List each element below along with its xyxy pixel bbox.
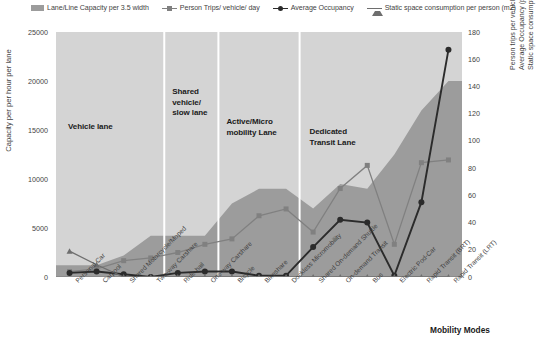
x-axis-label: One-way Carshare: [209, 279, 214, 284]
legend-item-capacity: Lane/Line Capacity per 3.5 width: [31, 4, 149, 12]
legend-item-static-space: Static space consumption per person (m2): [367, 4, 516, 12]
y-axis-right-tick: 100: [468, 136, 498, 145]
area-capacity: [56, 81, 462, 277]
x-axis-title: Mobility Modes: [430, 325, 490, 335]
x-axis-label: Carpool: [101, 279, 106, 284]
data-point: [121, 258, 126, 263]
data-point: [338, 186, 343, 191]
x-axis-label: Bikeshare: [263, 279, 268, 284]
x-axis-label: Dockless Micromobility: [290, 279, 295, 284]
chart-page: Lane/Line Capacity per 3.5 width Person …: [0, 0, 547, 344]
data-point: [364, 220, 370, 226]
x-axis-label: Rapid Transit (BRT): [425, 279, 430, 284]
legend-item-average-occupancy: Average Occupancy: [273, 4, 354, 12]
x-axis-label: Electric Pod-Car: [398, 279, 403, 284]
data-point: [67, 248, 73, 254]
x-axis-label: On-demand Transit: [344, 279, 349, 284]
square-marker-icon: [162, 5, 177, 12]
data-point: [257, 213, 262, 218]
data-point: [418, 199, 424, 205]
chart-legend: Lane/Line Capacity per 3.5 width Person …: [0, 0, 547, 16]
y-axis-right-tick: 120: [468, 109, 498, 118]
data-point: [284, 206, 289, 211]
y-axis-left-tick: 10000: [0, 175, 48, 184]
y-axis-left-tick: 0: [0, 273, 48, 282]
data-point: [365, 163, 370, 168]
data-point: [202, 242, 207, 247]
y-axis-left-tick: 25000: [0, 28, 48, 37]
data-point: [337, 217, 343, 223]
data-point: [392, 242, 397, 247]
legend-label-static-space: Static space consumption per person (m2): [385, 4, 516, 12]
y-axis-right-tick: 40: [468, 218, 498, 227]
y-axis-left-tick: 5000: [0, 224, 48, 233]
legend-label-capacity: Lane/Line Capacity per 3.5 width: [47, 4, 149, 12]
zone-label-0: Vehicle lane: [68, 122, 164, 133]
y-axis-right-title-line: Static space consumption per person (m2): [527, 0, 536, 70]
y-axis-right-tick: 80: [468, 164, 498, 173]
y-axis-left-tick: 20000: [0, 77, 48, 86]
x-axis-label: Shared On-demand Shuttle: [317, 279, 322, 284]
data-point: [67, 270, 73, 276]
y-axis-right-title-line: Average Occupancy (peak period): [518, 0, 527, 70]
x-axis-label: Rapid Transit (LRT): [452, 279, 457, 284]
data-point: [445, 47, 451, 53]
data-point: [311, 230, 316, 235]
plot-area: [56, 32, 462, 277]
legend-item-person-trips: Person Trips/ vehicle/ day: [162, 4, 260, 12]
data-point: [94, 269, 100, 275]
legend-label-person-trips: Person Trips/ vehicle/ day: [180, 4, 260, 12]
circle-marker-icon: [273, 5, 288, 12]
y-axis-right-tick: 140: [468, 82, 498, 91]
legend-label-average-occupancy: Average Occupancy: [291, 4, 354, 12]
zone-label-2: Active/Micromobility Lane: [226, 117, 295, 138]
data-point: [419, 160, 424, 165]
y-axis-right-tick: 160: [468, 55, 498, 64]
x-axis-label: Ride-hail: [182, 279, 187, 284]
x-axis-label: Bicycle: [236, 279, 241, 284]
y-axis-left-tick: 15000: [0, 126, 48, 135]
x-axis-label: Shared Motorcycle/Moped: [128, 279, 133, 284]
triangle-marker-icon: [367, 5, 382, 12]
y-axis-right-title-line: Person trips per vehicle per day: [509, 0, 518, 70]
x-axis-label: Two-way Carshare: [155, 279, 160, 284]
data-point: [310, 244, 316, 250]
zone-label-1: Shared vehicle/slow lane: [172, 87, 214, 119]
chart-canvas: [56, 32, 462, 277]
area-swatch-icon: [31, 5, 44, 11]
zone-label-3: DedicatedTransit Lane: [310, 127, 460, 148]
y-axis-right-tick: 0: [468, 273, 498, 282]
data-point: [446, 157, 451, 162]
y-axis-right-tick: 180: [468, 28, 498, 37]
x-axis-label: Bus: [371, 279, 376, 284]
data-point: [229, 269, 235, 275]
x-axis-label: Personal Car: [74, 279, 79, 284]
data-point: [202, 269, 208, 275]
y-axis-right-tick: 60: [468, 191, 498, 200]
data-point: [229, 236, 234, 241]
y-axis-right-title: Person trips per vehicle per dayAverage …: [509, 0, 536, 70]
